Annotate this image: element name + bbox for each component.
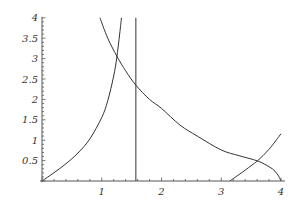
x-tick-label: 2 <box>157 186 164 197</box>
y-tick-label: 4 <box>31 12 38 23</box>
y-tick-label: 1.5 <box>22 114 38 125</box>
x-tick-label: 3 <box>218 186 224 197</box>
y-tick-label: 0.5 <box>22 155 38 166</box>
x-axis-ticks: 1234 <box>42 178 284 198</box>
series-curve-4 <box>230 134 281 181</box>
plot-area: 1234 0.511.522.533.54 <box>0 0 300 205</box>
y-tick-label: 2.5 <box>21 74 38 85</box>
y-tick-label: 3 <box>32 53 38 64</box>
x-tick-label: 4 <box>277 186 284 197</box>
x-tick-label: 1 <box>99 186 105 197</box>
y-tick-label: 2 <box>31 94 38 105</box>
y-tick-label: 3.5 <box>22 33 38 44</box>
series-curve-3 <box>100 18 281 181</box>
curves-group <box>42 18 281 181</box>
y-tick-label: 1 <box>32 135 38 146</box>
